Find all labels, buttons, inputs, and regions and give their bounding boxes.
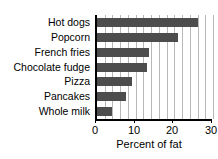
bar-hot-dogs bbox=[97, 18, 198, 27]
bar-pancakes bbox=[97, 92, 126, 101]
bar-popcorn bbox=[97, 33, 178, 42]
plot-area bbox=[95, 15, 213, 119]
x-axis-line bbox=[95, 119, 212, 121]
bar-series bbox=[97, 15, 213, 119]
bar-whole-milk bbox=[97, 107, 112, 116]
category-label-hot-dogs: Hot dogs bbox=[0, 15, 93, 30]
bar-slot bbox=[97, 74, 213, 89]
x-axis-tick bbox=[134, 119, 135, 123]
category-label-french-fries: French fries bbox=[0, 45, 93, 60]
x-axis-tick bbox=[95, 119, 96, 123]
bar-slot bbox=[97, 89, 213, 104]
bar-slot bbox=[97, 15, 213, 30]
x-axis-tick bbox=[172, 119, 173, 123]
bar-chart: Fat content of foods Hot dogs Popcorn Fr… bbox=[0, 0, 218, 159]
chart-title: Fat content of foods bbox=[0, 0, 218, 2]
category-label-popcorn: Popcorn bbox=[0, 30, 93, 45]
bar-slot bbox=[97, 45, 213, 60]
category-label-whole-milk: Whole milk bbox=[0, 104, 93, 119]
x-tick-label-10: 10 bbox=[123, 124, 145, 137]
x-tick-label-30: 30 bbox=[200, 124, 218, 137]
x-axis-tick bbox=[211, 119, 212, 123]
gridline bbox=[213, 15, 214, 119]
x-axis-title: Percent of fat bbox=[80, 138, 218, 151]
category-label-pancakes: Pancakes bbox=[0, 89, 93, 104]
x-axis-tick-labels: 0 10 20 30 bbox=[95, 124, 212, 137]
bar-pizza bbox=[97, 77, 132, 86]
category-axis: Hot dogs Popcorn French fries Chocolate … bbox=[0, 15, 93, 119]
bar-french-fries bbox=[97, 48, 149, 57]
bar-chocolate-fudge bbox=[97, 63, 147, 72]
x-tick-label-0: 0 bbox=[84, 124, 106, 137]
bar-slot bbox=[97, 30, 213, 45]
bar-slot bbox=[97, 104, 213, 119]
category-label-pizza: Pizza bbox=[0, 74, 93, 89]
bar-slot bbox=[97, 60, 213, 75]
x-tick-label-20: 20 bbox=[161, 124, 183, 137]
category-label-chocolate-fudge: Chocolate fudge bbox=[0, 60, 93, 75]
